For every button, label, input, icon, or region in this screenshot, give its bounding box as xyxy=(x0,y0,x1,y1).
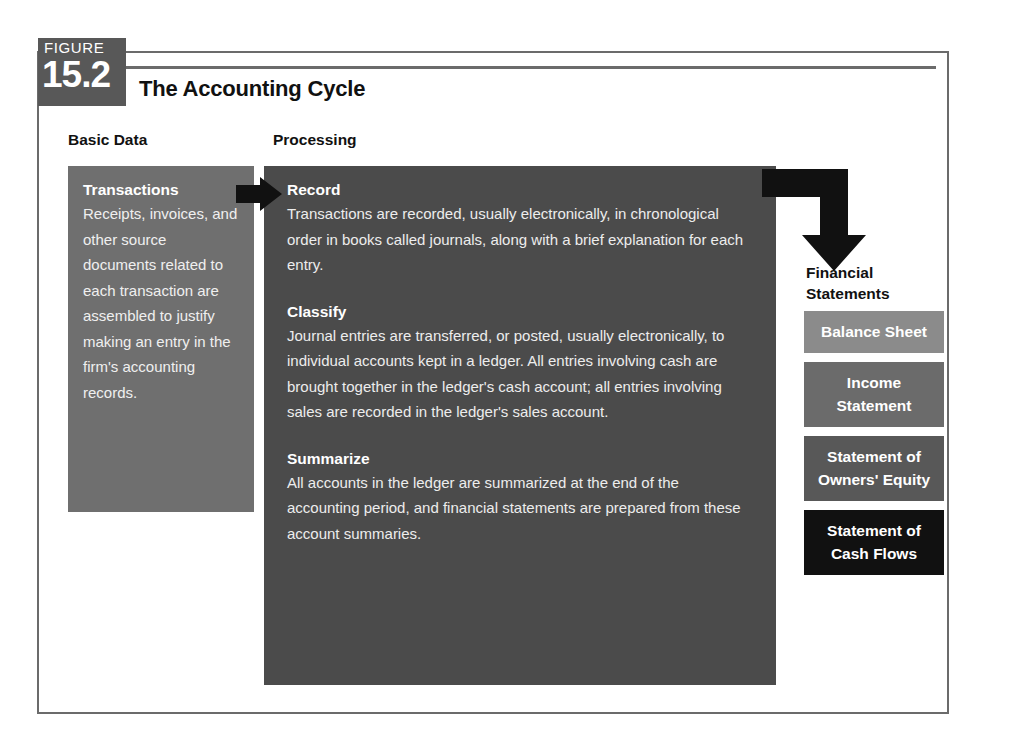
statement-box-statement-of-cash-flows: Statement of Cash Flows xyxy=(804,510,944,575)
step-body-record: Transactions are recorded, usually elect… xyxy=(287,201,754,278)
step-title-record: Record xyxy=(287,180,754,200)
figure-number: 15.2 xyxy=(42,54,110,96)
step-title-classify: Classify xyxy=(287,302,754,322)
figure-number-badge: FIGURE 15.2 xyxy=(38,38,126,106)
column-header-processing: Processing xyxy=(273,131,357,149)
step-title-summarize: Summarize xyxy=(287,449,754,469)
transactions-body: Receipts, invoices, and other source doc… xyxy=(83,201,239,405)
step-body-summarize: All accounts in the ledger are summarize… xyxy=(287,470,754,547)
column-header-basic-data: Basic Data xyxy=(68,131,147,149)
figure-title: The Accounting Cycle xyxy=(139,76,365,102)
arrow-elbow-down-icon xyxy=(762,163,880,271)
step-body-classify: Journal entries are transferred, or post… xyxy=(287,323,754,425)
transactions-title: Transactions xyxy=(83,180,239,200)
figure-page: FIGURE 15.2 The Accounting Cycle Basic D… xyxy=(0,0,1012,756)
title-divider-rule xyxy=(126,66,936,69)
statement-box-balance-sheet: Balance Sheet xyxy=(804,311,944,353)
statement-box-income-statement: Income Statement xyxy=(804,362,944,427)
processing-panel: Record Transactions are recorded, usuall… xyxy=(264,166,776,685)
arrow-right-icon xyxy=(236,177,282,211)
financial-statements-heading-line2: Statements xyxy=(806,283,956,304)
transactions-panel: Transactions Receipts, invoices, and oth… xyxy=(68,166,254,512)
statement-box-statement-of-owners-equity: Statement of Owners' Equity xyxy=(804,436,944,501)
financial-statements-list: Balance Sheet Income Statement Statement… xyxy=(804,311,944,584)
